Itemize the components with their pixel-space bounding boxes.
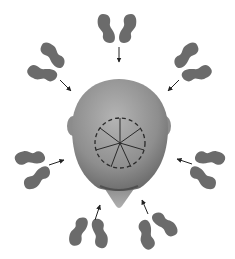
head-footprints-diagram	[0, 0, 235, 259]
footprints-left	[13, 145, 53, 191]
arrow-lower-left	[95, 205, 100, 220]
head	[67, 79, 171, 208]
footprints-lower-left	[69, 216, 110, 248]
arrow-left	[49, 160, 64, 165]
footprints-lower-right	[132, 207, 180, 251]
footprints-right	[186, 145, 226, 191]
arrow-lower-right	[142, 200, 148, 214]
diagram-canvas	[0, 0, 235, 259]
footprints-upper-right	[169, 40, 213, 88]
arrow-right	[177, 159, 192, 164]
arrow-upper-right	[168, 80, 179, 91]
arrow-upper-left	[60, 80, 71, 91]
footprints-top	[98, 14, 137, 43]
footprints-upper-left	[25, 40, 69, 88]
